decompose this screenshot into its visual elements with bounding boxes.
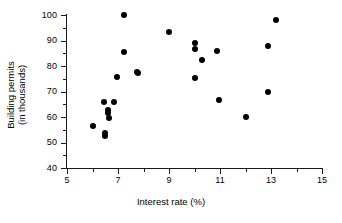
- data-point: [121, 12, 127, 18]
- data-point: [273, 17, 279, 23]
- y-tick-label-90: 90: [33, 36, 57, 45]
- y-tick-100: [61, 15, 66, 16]
- y-tick-70: [61, 92, 66, 93]
- data-point: [216, 97, 222, 103]
- x-tick-label-11: 11: [210, 176, 230, 185]
- y-tick-minor-45: [63, 155, 66, 156]
- y-tick-label-40: 40: [33, 164, 57, 173]
- y-tick-minor-85: [63, 53, 66, 54]
- x-tick-9: [169, 169, 170, 174]
- y-axis-title: Building permits (in thousands): [5, 35, 27, 155]
- data-point: [265, 43, 271, 49]
- data-point: [192, 40, 198, 46]
- x-tick-label-13: 13: [261, 176, 281, 185]
- x-tick-13: [271, 169, 272, 174]
- y-axis-title-line-1: Building permits: [5, 35, 16, 155]
- y-tick-label-70: 70: [33, 87, 57, 96]
- data-point: [199, 57, 205, 63]
- x-tick-minor-6: [93, 169, 94, 172]
- y-tick-label-100: 100: [33, 11, 57, 20]
- x-tick-minor-8: [144, 169, 145, 172]
- data-point: [111, 99, 117, 105]
- y-tick-90: [61, 41, 66, 42]
- y-tick-minor-65: [63, 104, 66, 105]
- data-point: [192, 75, 198, 81]
- y-tick-minor-75: [63, 79, 66, 80]
- data-point: [243, 114, 249, 120]
- data-point: [192, 46, 198, 52]
- scatter-chart-figure: 405060708090100579111315 Interest rate (…: [0, 0, 342, 223]
- y-tick-minor-95: [63, 28, 66, 29]
- x-tick-7: [118, 169, 119, 174]
- x-tick-minor-14: [297, 169, 298, 172]
- data-point: [114, 74, 120, 80]
- plot-area: [67, 15, 322, 168]
- y-axis-title-line-2: (in thousands): [16, 35, 27, 155]
- data-point: [90, 123, 96, 129]
- data-point: [265, 89, 271, 95]
- y-tick-minor-55: [63, 130, 66, 131]
- y-tick-label-50: 50: [33, 138, 57, 147]
- x-tick-minor-12: [246, 169, 247, 172]
- data-point: [106, 115, 112, 121]
- x-tick-5: [67, 169, 68, 174]
- x-tick-label-7: 7: [108, 176, 128, 185]
- y-tick-40: [61, 168, 66, 169]
- x-tick-11: [220, 169, 221, 174]
- x-tick-label-5: 5: [57, 176, 77, 185]
- y-tick-60: [61, 117, 66, 118]
- data-point: [121, 49, 127, 55]
- data-point: [214, 48, 220, 54]
- data-point: [166, 29, 172, 35]
- x-tick-minor-10: [195, 169, 196, 172]
- data-point: [102, 133, 108, 139]
- x-tick-label-15: 15: [312, 176, 332, 185]
- data-point: [135, 70, 141, 76]
- y-tick-label-60: 60: [33, 113, 57, 122]
- y-tick-label-80: 80: [33, 62, 57, 71]
- y-tick-80: [61, 66, 66, 67]
- x-axis-title: Interest rate (%): [0, 196, 342, 207]
- x-tick-label-9: 9: [159, 176, 179, 185]
- y-tick-50: [61, 143, 66, 144]
- data-point: [101, 99, 107, 105]
- x-tick-15: [322, 169, 323, 174]
